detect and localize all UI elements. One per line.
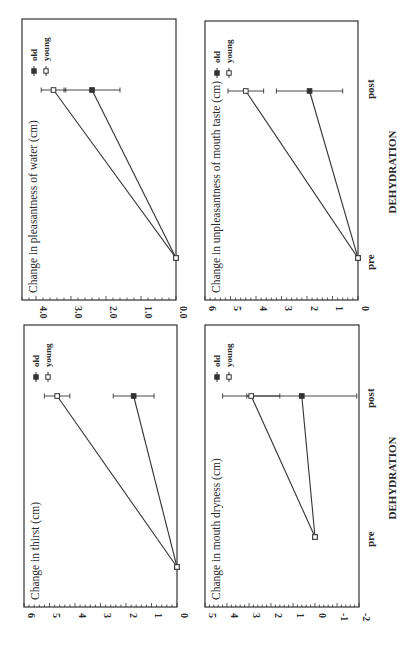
data-point-young (174, 256, 179, 261)
legend-label-young: young (224, 343, 234, 367)
old-legend-marker-icon (215, 375, 219, 379)
y-tick-label: 1.0 (143, 306, 154, 319)
series-line-old (302, 396, 315, 537)
series-line-young (251, 396, 315, 537)
y-tick-label: 5 (232, 306, 243, 311)
y-tick-label: 5 (51, 613, 62, 618)
x-axis-label: DEHYDRATION (386, 130, 398, 213)
y-tick-label: 0 (317, 613, 328, 618)
y-tick-label: 1 (295, 613, 306, 618)
series-line-old (134, 396, 177, 567)
figure-canvas: 0123456Change in thirst (cm)oldyoung0.01… (0, 0, 412, 646)
old-legend-marker-icon (32, 69, 36, 73)
y-tick-label: 0.0 (178, 306, 189, 319)
data-point-young (313, 535, 318, 540)
data-point-young (356, 256, 361, 261)
chart-panel-1: 0.01.02.03.04.0Change in pleasantness of… (22, 19, 189, 319)
data-point-old (90, 88, 95, 93)
data-point-young (244, 89, 249, 94)
y-tick-label: 6 (26, 613, 37, 618)
data-point-young (249, 394, 254, 399)
y-tick-label: -1 (339, 613, 350, 621)
data-point-young (55, 394, 60, 399)
young-legend-marker-icon (46, 375, 50, 379)
chart-panel-3: 0123456Change in unpleasantness of mouth… (205, 21, 371, 311)
legend-label-old: old (212, 51, 222, 63)
panel-title: Change in unpleasantness of mouth taste … (210, 81, 223, 293)
x-category-pre: pre (364, 531, 376, 547)
panel-title: Change in thirst (cm) (29, 502, 42, 600)
y-tick-label: 3 (251, 613, 262, 618)
y-tick-label: 0 (360, 306, 371, 311)
y-tick-label: 4 (229, 613, 240, 618)
y-tick-label: 5 (207, 613, 218, 618)
old-legend-marker-icon (34, 375, 38, 379)
legend-label-old: old (31, 355, 41, 367)
legend-label-old: old (212, 355, 222, 367)
y-tick-label: 3 (102, 613, 113, 618)
series-line-young (246, 91, 358, 258)
y-tick-label: 2 (309, 306, 320, 311)
y-tick-label: 1 (153, 613, 164, 618)
young-legend-marker-icon (44, 69, 48, 73)
y-tick-label: 4 (258, 306, 269, 311)
young-legend-marker-icon (227, 375, 231, 379)
x-axis-label: DEHYDRATION (386, 436, 398, 519)
legend-label-old: old (29, 49, 39, 61)
y-tick-label: 2 (128, 613, 139, 618)
y-tick-label: 6 (207, 306, 218, 311)
y-tick-label: 2.0 (108, 306, 119, 319)
series-line-young (57, 396, 177, 567)
y-tick-label: 1 (334, 306, 345, 311)
data-point-young (51, 88, 56, 93)
series-line-old (92, 90, 176, 258)
panel-title: Change in pleasantness of water (cm) (27, 120, 40, 293)
legend-label-young: young (224, 39, 234, 63)
y-tick-label: 4.0 (38, 306, 49, 319)
y-tick-label: 2 (273, 613, 284, 618)
data-point-old (131, 394, 136, 399)
x-category-post: post (364, 79, 376, 99)
old-legend-marker-icon (215, 71, 219, 75)
y-tick-label: 3 (283, 306, 294, 311)
y-tick-label: -2 (361, 613, 372, 621)
chart-panel-2: -2-1012345Change in mouth dryness (cm)ol… (205, 325, 372, 621)
series-line-young (54, 90, 177, 258)
four-panel-line-chart: 0123456Change in thirst (cm)oldyoung0.01… (0, 0, 412, 646)
legend-label-young: young (41, 37, 51, 61)
data-point-old (300, 394, 305, 399)
y-tick-label: 4 (77, 613, 88, 618)
series-line-old (310, 91, 358, 258)
data-point-old (307, 89, 312, 94)
chart-panel-0: 0123456Change in thirst (cm)oldyoung (24, 325, 190, 618)
data-point-young (175, 565, 180, 570)
legend-label-young: young (43, 343, 53, 367)
y-tick-label: 0 (179, 613, 190, 618)
x-category-pre: pre (364, 254, 376, 270)
x-category-post: post (364, 388, 376, 408)
young-legend-marker-icon (227, 71, 231, 75)
panel-title: Change in mouth dryness (cm) (210, 458, 223, 600)
y-tick-label: 3.0 (73, 306, 84, 319)
